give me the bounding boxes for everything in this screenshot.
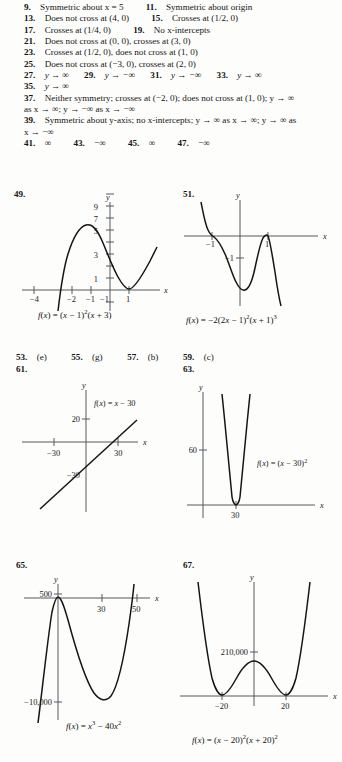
y-label-7: 7 <box>94 215 98 224</box>
answer-text: Does not cross at (4, 0) <box>45 13 129 23</box>
answer-text: Does not cross at (0, 0), crosses at (3,… <box>45 36 191 46</box>
x-label-neg1: −1 <box>206 240 215 249</box>
answer-number: 27. <box>24 70 35 80</box>
mc-answer-53: (e) <box>37 352 47 362</box>
figure-caption-67: f(x) = (x − 20)2(x + 20)2 <box>192 735 278 745</box>
answer-number: 11. <box>146 2 157 12</box>
figure-label-61: 61. <box>16 364 27 374</box>
answer-number: 39. <box>24 115 35 125</box>
answer-text: −∞ <box>198 138 210 148</box>
mc-answer-59: (c) <box>204 352 214 362</box>
y-label-neg10000: −10,000 <box>24 698 52 707</box>
x-label-30: 30 <box>114 449 122 458</box>
figure-51: −1 1 −1 x y <box>180 198 335 308</box>
x-label-1: 1 <box>265 240 269 249</box>
graph-63-svg: 60 30 x y f(x) = (x − 30)2 <box>183 380 335 525</box>
x-label-neg20: −20 <box>215 702 228 711</box>
figure-label-67: 67. <box>183 560 194 570</box>
answer-number: 21. <box>24 36 35 46</box>
figure-caption-65: f(x) = x3 − 40x2 <box>66 721 121 731</box>
graph-67-svg: 210,000 −20 20 x y <box>176 576 342 716</box>
x-label-neg4: −4 <box>30 295 40 304</box>
answer-line-35: 35. y → ∞ <box>8 81 336 92</box>
answer-number: 23. <box>24 47 35 57</box>
answer-number: 29. <box>84 70 95 80</box>
figure-label-63: 63. <box>183 364 194 374</box>
mc-number-59: 59. <box>183 352 194 362</box>
answer-text: Crosses at (1/4, 0) <box>45 25 111 35</box>
y-axis-name: y <box>235 191 240 200</box>
answer-line-39: 39. Symmetric about y-axis; no x-interce… <box>8 115 336 126</box>
answer-number: 17. <box>24 25 35 35</box>
answer-text: ∞ <box>149 138 155 148</box>
answer-text: Symmetric about y-axis; no x-intercepts;… <box>45 115 297 125</box>
answer-text: Crosses at (1/2, 0) <box>172 13 238 23</box>
x-label-neg1: −1 <box>86 295 95 304</box>
answer-text: Neither symmetry; crosses at (−2, 0); do… <box>45 93 295 103</box>
x-label-30: 30 <box>231 511 239 520</box>
x-label-30: 30 <box>97 605 105 614</box>
y-label-60: 60 <box>189 446 197 455</box>
answer-number: 35. <box>24 81 35 91</box>
answer-text: y → ∞ <box>237 70 261 80</box>
answer-number: 41. <box>24 138 35 148</box>
answers-list: 9. Symmetric about x = 5 11. Symmetric a… <box>0 2 342 149</box>
figure-caption-51: f(x) = −2(2x − 1)2(x + 1)3 <box>186 315 277 325</box>
y-label-210000: 210,000 <box>221 648 248 657</box>
x-axis-name: x <box>322 232 327 241</box>
answer-number: 25. <box>24 59 35 69</box>
figure-caption-63: f(x) = (x − 30)2 <box>257 457 307 469</box>
answer-number: 19. <box>133 25 144 35</box>
y-axis-name: y <box>249 573 254 582</box>
y-axis-name: y <box>81 381 86 390</box>
y-label-neg1: −1 <box>225 254 234 263</box>
answer-number: 9. <box>24 2 31 12</box>
graph-65-svg: 500 −10,000 30 50 x y <box>10 576 170 726</box>
answer-line-37-continued: as x → ∞; y → −∞ as x → −∞ <box>8 104 336 115</box>
answer-line-9-11: 9. Symmetric about x = 5 11. Symmetric a… <box>8 2 336 13</box>
answer-number: 13. <box>24 13 35 23</box>
y-label-3: 3 <box>94 251 98 260</box>
answer-line-39-continued: x → −∞ <box>8 127 336 138</box>
mc-number-57: 57. <box>127 352 138 362</box>
curve-63 <box>222 394 250 505</box>
figure-caption-61: f(x) = x − 30 <box>94 399 136 408</box>
answer-text: Does not cross at (−3, 0), crosses at (2… <box>45 59 196 69</box>
curve-51 <box>201 202 281 306</box>
y-label-5: 5 <box>94 227 98 236</box>
answer-number: 43. <box>73 138 84 148</box>
answer-text: y → ∞ <box>45 70 69 80</box>
graph-51-svg: −1 1 −1 x y <box>180 198 335 308</box>
x-label-neg30: −30 <box>47 449 60 458</box>
mc-number-53: 53. <box>16 352 27 362</box>
answer-text: y → ∞ <box>45 81 69 91</box>
mc-answer-55: (g) <box>92 352 103 362</box>
x-label-1: 1 <box>126 295 130 304</box>
answer-text: ∞ <box>45 138 51 148</box>
figure-63: 60 30 x y f(x) = (x − 30)2 <box>183 380 335 525</box>
x-label-50: 50 <box>132 605 140 614</box>
answer-number: 31. <box>150 70 161 80</box>
answer-line-23: 23. Crosses at (1/2, 0), does not cross … <box>8 47 336 58</box>
answer-text: Crosses at (1/2, 0), does not cross at (… <box>45 47 198 57</box>
figure-label-65: 65. <box>16 560 27 570</box>
answer-number: 47. <box>177 138 188 148</box>
answer-number: 15. <box>151 13 162 23</box>
answer-line-41-47: 41. ∞ 43. −∞ 45. ∞ 47. −∞ <box>8 138 336 149</box>
y-axis-name: y <box>198 383 203 392</box>
y-label-20: 20 <box>72 415 80 424</box>
y-axis-name: y <box>53 575 58 584</box>
answer-text: −∞ <box>94 138 106 148</box>
curve-65 <box>38 584 134 723</box>
y-label-neg1: −1 <box>100 295 109 304</box>
answer-line-21: 21. Does not cross at (0, 0), crosses at… <box>8 36 336 47</box>
answer-number: 33. <box>217 70 228 80</box>
mc-row-53-59: 53. (e) 55. (g) 57. (b) 59. (c) <box>16 352 214 362</box>
answer-line-27-33: 27. y → ∞ 29. y → −∞ 31. y → −∞ 33. y → … <box>8 70 336 81</box>
figure-61: −30 30 20 −30 x y f(x) = x − 30 <box>16 380 166 520</box>
answer-key-page: 9. Symmetric about x = 5 11. Symmetric a… <box>0 0 342 762</box>
graph-61-svg: −30 30 20 −30 x y f(x) = x − 30 <box>16 380 166 520</box>
x-label-neg2: −2 <box>67 295 76 304</box>
x-axis-name: x <box>332 692 337 701</box>
answer-number: 45. <box>128 138 139 148</box>
